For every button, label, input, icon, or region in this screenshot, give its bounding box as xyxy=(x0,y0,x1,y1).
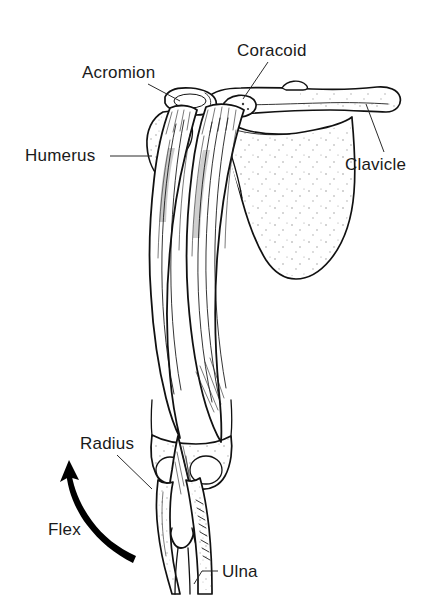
label-acromion: Acromion xyxy=(82,63,155,82)
label-humerus: Humerus xyxy=(25,146,95,165)
leader-radius xyxy=(117,455,152,489)
flex-arrow xyxy=(60,460,136,563)
label-flex: Flex xyxy=(48,520,81,539)
label-radius: Radius xyxy=(80,434,134,453)
label-clavicle: Clavicle xyxy=(345,155,406,174)
figure-canvas: Coracoid Acromion Humerus Clavicle Radiu… xyxy=(0,0,435,597)
label-ulna: Ulna xyxy=(222,562,258,581)
label-coracoid: Coracoid xyxy=(237,41,307,60)
anatomy-illustration: Coracoid Acromion Humerus Clavicle Radiu… xyxy=(0,0,435,597)
